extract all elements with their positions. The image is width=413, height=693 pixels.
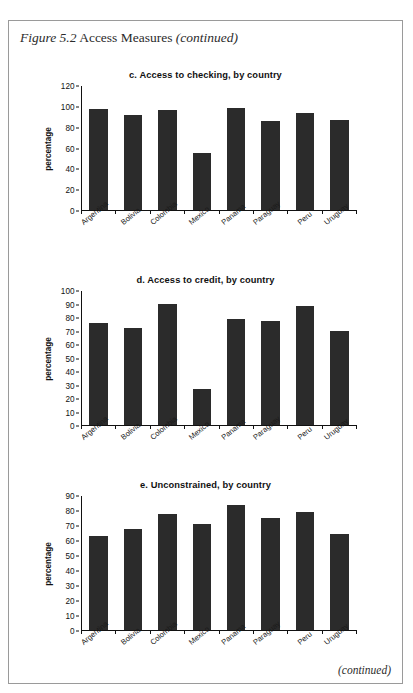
y-tick-label: 90 bbox=[65, 300, 74, 309]
y-tick-mark bbox=[76, 426, 79, 427]
bar-slot bbox=[150, 291, 184, 425]
bar-slot bbox=[322, 496, 356, 630]
chart-c-y-ticks: 020406080100120 bbox=[55, 86, 79, 211]
chart-d-bars bbox=[82, 291, 357, 425]
x-label-slot: Paraguay bbox=[253, 637, 288, 681]
y-tick-label: 70 bbox=[65, 327, 74, 336]
bar-slot bbox=[288, 86, 322, 210]
chart-c-x-axis-labels: ArgentinaBoliviaColombiaMexicoPanamaPara… bbox=[81, 217, 357, 261]
x-label-slot: Paraguay bbox=[253, 217, 288, 261]
bar-slot bbox=[116, 291, 150, 425]
bar-slot bbox=[150, 496, 184, 630]
bar bbox=[261, 321, 280, 425]
chart-d-access-to-credit: d. Access to credit, by countrypercentag… bbox=[8, 275, 403, 480]
x-label-slot: Colombia bbox=[150, 217, 185, 261]
chart-c-plot-area: percentage020406080100120ArgentinaBolivi… bbox=[41, 86, 371, 211]
y-tick-label: 60 bbox=[65, 537, 74, 546]
bar bbox=[158, 514, 177, 630]
chart-e-x-ticks bbox=[82, 630, 357, 634]
bar bbox=[227, 319, 246, 425]
chart-c-access-to-checking: c. Access to checking, by countrypercent… bbox=[8, 70, 403, 270]
y-tick-label: 100 bbox=[61, 102, 75, 111]
y-tick-mark bbox=[76, 372, 79, 373]
y-tick-label: 80 bbox=[65, 314, 74, 323]
bar bbox=[89, 536, 108, 630]
bar bbox=[124, 529, 143, 630]
y-tick-label: 10 bbox=[65, 408, 74, 417]
y-tick-mark bbox=[76, 601, 79, 602]
chart-e-unconstrained: e. Unconstrained, by countrypercentage01… bbox=[8, 480, 403, 685]
x-label-slot: Colombia bbox=[150, 637, 185, 681]
chart-d-axes bbox=[81, 291, 357, 426]
bar bbox=[227, 505, 246, 630]
chart-e-title: e. Unconstrained, by country bbox=[8, 480, 403, 490]
y-tick-mark bbox=[76, 148, 79, 149]
y-axis-label-text: percentage bbox=[43, 127, 52, 171]
x-label-slot: Bolivia bbox=[115, 432, 150, 476]
bar bbox=[227, 108, 246, 210]
bar bbox=[193, 153, 212, 210]
y-tick-label: 0 bbox=[70, 207, 75, 216]
x-label-slot: Bolivia bbox=[115, 637, 150, 681]
y-tick-mark bbox=[76, 106, 79, 107]
bar-slot bbox=[116, 496, 150, 630]
y-tick-label: 30 bbox=[65, 381, 74, 390]
y-tick-mark bbox=[76, 304, 79, 305]
y-tick-mark bbox=[76, 631, 79, 632]
y-tick-label: 80 bbox=[65, 123, 74, 132]
bar-slot bbox=[82, 86, 116, 210]
y-tick-label: 0 bbox=[70, 627, 75, 636]
x-label-slot: Panama bbox=[219, 432, 254, 476]
chart-d-x-axis-labels: ArgentinaBoliviaColombiaMexicoPanamaPara… bbox=[81, 432, 357, 476]
x-label-slot: Panama bbox=[219, 637, 254, 681]
y-tick-mark bbox=[76, 345, 79, 346]
bar-slot bbox=[82, 496, 116, 630]
x-label-slot: Argentina bbox=[81, 637, 116, 681]
chart-d-title: d. Access to credit, by country bbox=[8, 275, 403, 285]
chart-d-plot-area: percentage0102030405060708090100Argentin… bbox=[41, 291, 371, 426]
bar bbox=[158, 110, 177, 210]
y-tick-label: 40 bbox=[65, 165, 74, 174]
bar-slot bbox=[322, 291, 356, 425]
y-tick-label: 0 bbox=[70, 422, 75, 431]
bar-slot bbox=[219, 86, 253, 210]
figure-continued-note: (continued) bbox=[176, 30, 238, 45]
figure-caption: Figure 5.2 Access Measures (continued) bbox=[20, 30, 238, 46]
x-label-slot: Uruguay bbox=[322, 217, 357, 261]
y-tick-label: 90 bbox=[65, 492, 74, 501]
bar bbox=[330, 120, 349, 210]
y-tick-label: 80 bbox=[65, 507, 74, 516]
x-label-slot: Mexico bbox=[184, 637, 219, 681]
chart-e-x-axis-labels: ArgentinaBoliviaColombiaMexicoPanamaPara… bbox=[81, 637, 357, 681]
bar bbox=[296, 306, 315, 425]
bar bbox=[193, 524, 212, 630]
chart-c-bars bbox=[82, 86, 357, 210]
bar bbox=[261, 121, 280, 210]
x-label-slot: Argentina bbox=[81, 217, 116, 261]
figure-number: Figure 5.2 bbox=[20, 30, 77, 45]
bar-slot bbox=[185, 291, 219, 425]
y-tick-mark bbox=[76, 541, 79, 542]
bar bbox=[330, 331, 349, 425]
bar bbox=[330, 534, 349, 630]
x-label-slot: Mexico bbox=[184, 217, 219, 261]
y-tick-label: 40 bbox=[65, 368, 74, 377]
bar-slot bbox=[253, 496, 287, 630]
x-label-slot: Paraguay bbox=[253, 432, 288, 476]
y-tick-mark bbox=[76, 511, 79, 512]
chart-c-x-ticks bbox=[82, 210, 357, 214]
figure-title-text: Access Measures bbox=[79, 30, 172, 45]
chart-d-y-axis-label: percentage bbox=[41, 291, 55, 426]
x-label-slot: Mexico bbox=[184, 432, 219, 476]
chart-c-y-axis-label: percentage bbox=[41, 86, 55, 211]
y-tick-mark bbox=[76, 556, 79, 557]
bar bbox=[158, 304, 177, 425]
y-tick-label: 10 bbox=[65, 612, 74, 621]
y-tick-label: 40 bbox=[65, 567, 74, 576]
bar bbox=[89, 109, 108, 210]
bar bbox=[296, 512, 315, 630]
y-tick-label: 20 bbox=[65, 186, 74, 195]
x-label-slot: Peru bbox=[288, 432, 323, 476]
chart-c-axes bbox=[81, 86, 357, 211]
y-tick-label: 20 bbox=[65, 395, 74, 404]
